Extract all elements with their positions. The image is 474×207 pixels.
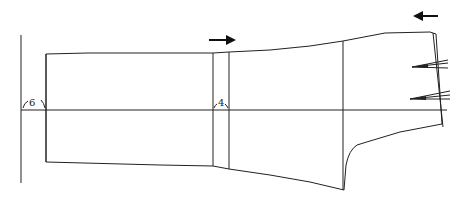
- sleeve-pattern-diagram: 6 4: [0, 0, 474, 207]
- angle-arc-left-b: [41, 100, 45, 108]
- arrow-right-icon: [209, 35, 236, 45]
- dart-lower: [410, 91, 450, 99]
- angle-label-4: 4: [218, 97, 224, 108]
- angle-arc-mid-b: [225, 104, 228, 108]
- angle-label-6: 6: [29, 97, 35, 108]
- angle-arc-mid-a: [214, 104, 217, 108]
- angle-arc-left-a: [23, 101, 28, 108]
- cuff-line: [433, 33, 443, 127]
- pattern-outline: [46, 32, 442, 190]
- arrow-left-icon: [413, 11, 438, 21]
